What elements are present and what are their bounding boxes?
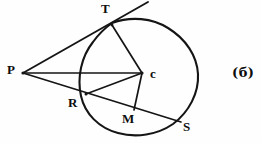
figure-caption: (б) — [232, 66, 254, 79]
vertex-dot-t — [111, 24, 114, 27]
radius-ct — [112, 25, 142, 73]
geometry-figure: P T c R M S (б) — [0, 0, 261, 143]
vertex-dot-p — [21, 71, 24, 74]
segment-rc — [86, 73, 142, 94]
point-label-p: P — [7, 63, 15, 76]
point-label-c: c — [150, 67, 156, 80]
vertex-dot-r — [85, 93, 88, 96]
point-label-t: T — [101, 2, 110, 15]
point-label-r: R — [68, 96, 78, 109]
point-label-m: M — [122, 112, 135, 125]
tangent-line — [23, 2, 148, 73]
vertex-dot-c — [140, 71, 143, 74]
radius-cm — [134, 73, 142, 110]
circle-outline — [80, 19, 199, 135]
point-label-s: S — [183, 120, 191, 133]
secant-prs — [23, 73, 181, 122]
